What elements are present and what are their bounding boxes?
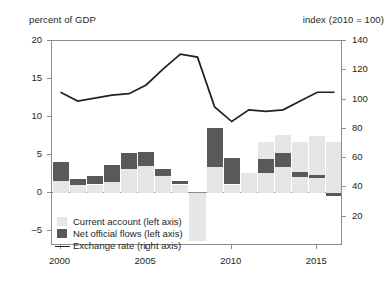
left-axis-tick-0: 0 — [16, 186, 42, 197]
x-axis-tick-2015: 2015 — [296, 255, 336, 266]
left-axis-tick--5: –5 — [16, 224, 42, 235]
legend-label-net-official-flows: Net official flows (left axis) — [73, 228, 183, 240]
chart-legend: Current account (left axis) Net official… — [57, 216, 183, 253]
legend-label-exchange-rate: Exchange rate (right axis) — [73, 240, 181, 252]
right-tick-mark — [342, 69, 346, 70]
right-axis-tick-60: 60 — [352, 151, 382, 162]
right-tick-mark — [342, 157, 346, 158]
left-axis-tick-10: 10 — [16, 110, 42, 121]
plot-area — [51, 40, 342, 245]
right-tick-mark — [342, 186, 346, 187]
chart-figure: percent of GDP index (2010 = 100) –50510… — [0, 0, 390, 303]
legend-item-current-account: Current account (left axis) — [57, 216, 183, 228]
x-axis-tick-2005: 2005 — [125, 255, 165, 266]
exchange-rate-polyline — [61, 54, 335, 121]
legend-item-exchange-rate: Exchange rate (right axis) — [57, 240, 183, 252]
left-axis-tick-5: 5 — [16, 148, 42, 159]
right-tick-mark — [342, 99, 346, 100]
legend-label-current-account: Current account (left axis) — [73, 216, 182, 228]
right-axis-tick-120: 120 — [352, 63, 382, 74]
left-axis-tick-15: 15 — [16, 72, 42, 83]
right-axis-caption: index (2010 = 100) — [303, 14, 384, 25]
exchange-rate-line — [52, 41, 342, 245]
x-tick-mark — [316, 245, 317, 249]
legend-item-net-official-flows: Net official flows (left axis) — [57, 228, 183, 240]
x-axis-tick-2000: 2000 — [40, 255, 80, 266]
right-axis-tick-20: 20 — [352, 210, 382, 221]
right-axis-tick-140: 140 — [352, 34, 382, 45]
x-tick-mark — [231, 245, 232, 249]
right-axis-tick-40: 40 — [352, 180, 382, 191]
right-axis-tick-80: 80 — [352, 122, 382, 133]
legend-swatch-icon-current-account — [57, 217, 67, 226]
right-tick-mark — [342, 40, 346, 41]
right-axis-tick-100: 100 — [352, 93, 382, 104]
left-axis-tick-20: 20 — [16, 34, 42, 45]
legend-line-icon-exchange-rate — [57, 242, 67, 251]
legend-swatch-icon-net-official-flows — [57, 229, 67, 238]
x-axis-tick-2010: 2010 — [211, 255, 251, 266]
left-axis-caption: percent of GDP — [29, 14, 96, 25]
right-tick-mark — [342, 128, 346, 129]
right-tick-mark — [342, 216, 346, 217]
